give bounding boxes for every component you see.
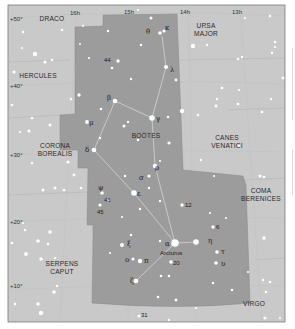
label-virgo: VIRGO — [243, 300, 265, 307]
star-label-rho: ρ — [155, 164, 159, 172]
star-label-psi: ψ — [98, 184, 104, 192]
label-serpens-caput-2: CAPUT — [50, 268, 73, 275]
star-label-beta: β — [107, 94, 111, 102]
star-label-12: 12 — [185, 202, 192, 208]
star-label-mu: μ — [89, 119, 94, 127]
margin-tick — [292, 48, 293, 120]
star-label-20: 20 — [173, 260, 180, 266]
star-label-zeta: ζ — [130, 277, 134, 285]
star-label-theta: θ — [146, 28, 150, 36]
star-label-delta: δ — [85, 146, 89, 154]
label-canes-venatici-2: VENATICI — [211, 142, 243, 149]
dec-label-plus30: +30° — [10, 152, 23, 158]
star-label-sigma: σ — [139, 174, 144, 182]
star-label-31: 31 — [141, 312, 148, 318]
label-coma-berenices-1: COMA — [251, 187, 272, 194]
star-label-kappa: κ — [165, 24, 170, 32]
label-canes-venatici-1: CANES — [215, 134, 239, 141]
star-label-45: 45 — [97, 209, 104, 215]
star-label-epsilon: ε — [137, 190, 141, 198]
star-label-gamma: γ — [156, 115, 160, 123]
label-corona-borealis-1: CORONA — [40, 142, 71, 149]
label-coma-berenices-2: BERENICES — [241, 195, 281, 202]
ra-label-16h: 16h — [70, 10, 80, 16]
star-chart: 16h 15h 14h 13h +50° +40° +30° +20° +10°… — [0, 0, 295, 329]
label-ursa-major-2: MAJOR — [194, 30, 218, 37]
label-ursa-major-1: URSA — [196, 22, 216, 29]
star-label-xi: ξ — [127, 240, 131, 248]
dec-label-plus50: +50° — [10, 16, 23, 22]
star-label-eta: η — [208, 237, 212, 245]
star-label-alpha: α — [165, 240, 170, 248]
star-label-arcturus: Arcturus — [160, 250, 182, 256]
margin-tick — [292, 150, 293, 195]
ra-label-13h: 13h — [232, 9, 242, 15]
label-bootes: BOÖTES — [132, 132, 161, 139]
star-label-upsilon: υ — [221, 260, 225, 268]
ra-label-14h: 14h — [180, 9, 190, 15]
label-serpens-caput-1: SERPENS — [46, 260, 79, 267]
dec-label-plus40: +40° — [10, 83, 23, 89]
label-draco: DRACO — [40, 15, 65, 22]
star-label-tau: τ — [221, 248, 225, 256]
ra-label-15h: 15h — [124, 9, 134, 15]
star-label-omicron: ο — [125, 256, 129, 264]
star-label-44: 44 — [104, 57, 111, 63]
dec-label-plus10: +10° — [10, 283, 23, 289]
star-label-pi: π — [144, 257, 149, 265]
label-corona-borealis-2: BOREALIS — [38, 150, 73, 157]
star-label-46: 46 — [104, 197, 111, 203]
dec-label-plus20: +20° — [10, 219, 23, 225]
star-label-lambda: λ — [170, 66, 175, 74]
label-hercules: HERCULES — [19, 72, 57, 79]
